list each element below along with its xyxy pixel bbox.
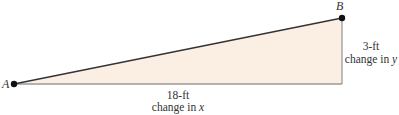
vertical-caption-prefix: change in [345, 53, 392, 66]
horizontal-caption-prefix: change in [152, 101, 199, 114]
point-a-dot [11, 81, 17, 87]
vertical-measure: 3-ft [363, 40, 380, 52]
horizontal-measure: 18-ft [167, 89, 190, 101]
vertical-caption-var: y [391, 53, 398, 66]
horizontal-caption: change in x [152, 101, 205, 114]
point-b-dot [339, 15, 345, 21]
point-b-label: B [336, 0, 344, 13]
slope-diagram: A B 18-ft change in x 3-ft change in y [0, 0, 399, 115]
vertical-caption: change in y [345, 53, 398, 66]
horizontal-caption-var: x [198, 101, 205, 113]
point-a-label: A [1, 77, 10, 91]
